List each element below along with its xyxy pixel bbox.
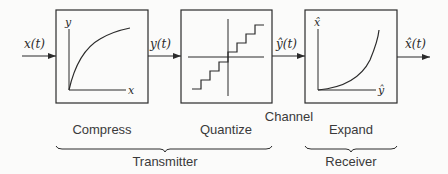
compress-x-label: x [128,84,135,97]
receiver-brace [305,146,397,152]
expand-label: Expand [329,122,373,137]
companding-diagram: x(t) y x Compress y(t) Quantize ŷ(t) Cha… [0,0,448,174]
compress-block: y x Compress [56,10,148,137]
expand-x-label: ŷ [377,84,385,97]
output-signal-label: x̂(t) [405,37,426,51]
output-signal: x̂(t) [397,37,430,57]
receiver-label: Receiver [325,154,377,169]
compress-y-label: y [64,16,72,29]
quantize-block: Quantize [181,10,272,137]
transmitter-group: Transmitter [56,146,272,169]
expand-block: x̂ ŷ Expand [305,10,397,137]
compress-label: Compress [72,122,132,137]
receiver-group: Receiver [305,146,397,169]
expand-curve [318,30,379,90]
transmitter-brace [56,146,272,152]
quantize-label: Quantize [200,122,252,137]
quantized-signal-label: ŷ(t) [275,37,297,51]
expand-y-label: x̂ [314,16,321,29]
compressed-signal-label: y(t) [149,37,171,51]
transmitter-label: Transmitter [132,154,198,169]
compress-curve [69,28,130,90]
compressed-signal: y(t) [148,37,181,56]
channel-label: Channel [265,109,314,124]
input-signal-label: x(t) [24,37,45,51]
input-signal: x(t) [22,37,56,56]
